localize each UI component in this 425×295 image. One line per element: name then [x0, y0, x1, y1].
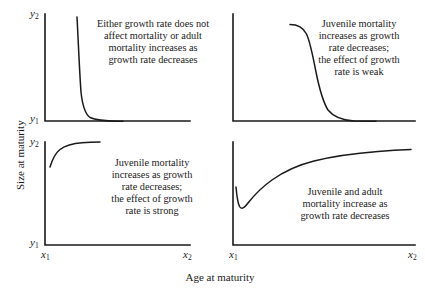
caption-line: Either growth rate does not — [92, 18, 214, 30]
caption-line: Juvenile mortality — [94, 157, 210, 169]
caption-line: the effect of growth — [94, 193, 210, 205]
caption-line: rate is weak — [300, 66, 418, 78]
caption-line: mortality increases as — [92, 42, 214, 54]
tick-label-y2-top-left: y2 — [30, 8, 39, 19]
tick-label-y1-bottom-left: y1 — [30, 237, 39, 248]
tick-label-x2-bottom-right: x2 — [408, 249, 417, 260]
caption-top-left: Either growth rate does not affect morta… — [92, 18, 214, 66]
tick-label-y2-bottom-left: y2 — [30, 136, 39, 147]
tick-label-y1-top-left: y1 — [30, 113, 39, 124]
curve-bottom-left — [50, 142, 100, 167]
caption-line: growth rate decreases — [92, 54, 214, 66]
caption-line: mortality increase as — [284, 198, 406, 210]
figure-container: Size at maturity Age at maturity y2 y1 y… — [0, 0, 425, 295]
tick-label-x2-bottom-left: x2 — [183, 249, 192, 260]
caption-bottom-right: Juvenile and adult mortality increase as… — [284, 186, 406, 222]
caption-line: rate decreases; — [94, 181, 210, 193]
x-axis-title: Age at maturity — [160, 271, 280, 283]
caption-top-right: Juvenile mortality increases as growth r… — [300, 18, 418, 78]
caption-line: affect mortality or adult — [92, 30, 214, 42]
caption-line: growth rate decreases — [284, 210, 406, 222]
caption-line: Juvenile mortality — [300, 18, 418, 30]
tick-label-x1-bottom-left: x1 — [41, 249, 50, 260]
caption-bottom-left: Juvenile mortality increases as growth r… — [94, 157, 210, 217]
caption-line: Juvenile and adult — [284, 186, 406, 198]
caption-line: rate decreases; — [300, 42, 418, 54]
tick-label-x1-bottom-right: x1 — [229, 249, 238, 260]
caption-line: increases as growth — [300, 30, 418, 42]
y-axis-title: Size at maturity — [14, 120, 26, 190]
caption-line: rate is strong — [94, 205, 210, 217]
caption-line: increases as growth — [94, 169, 210, 181]
caption-line: the effect of growth — [300, 54, 418, 66]
